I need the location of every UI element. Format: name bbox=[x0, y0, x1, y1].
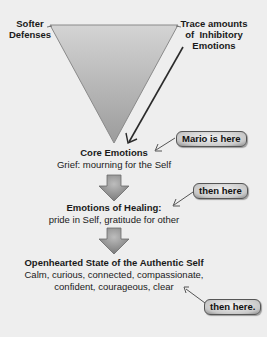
softer-defenses-label: Softer Defenses bbox=[8, 18, 52, 40]
emotions-of-healing-block: Emotions of Healing: pride in Self, grat… bbox=[24, 202, 204, 225]
label-line: Trace amounts bbox=[178, 18, 250, 29]
stage-description: pride in Self, gratitude for other bbox=[24, 214, 204, 225]
callout-badge-mario-is-here: Mario is here bbox=[176, 131, 247, 147]
openhearted-state-block: Openhearted State of the Authentic Self … bbox=[4, 257, 224, 292]
stage-title: Core Emotions bbox=[34, 147, 194, 158]
emotion-change-diagram: Softer Defenses Trace amounts of Inhibit… bbox=[0, 0, 267, 337]
callout-badge-then-here-final: then here. bbox=[204, 299, 261, 315]
label-line: Defenses bbox=[8, 29, 52, 40]
stage-description: confident, courageous, clear bbox=[4, 281, 224, 292]
inhibitory-emotions-label: Trace amounts of Inhibitory Emotions bbox=[178, 18, 250, 51]
stage-title: Openhearted State of the Authentic Self bbox=[4, 257, 224, 268]
label-line: Softer bbox=[8, 18, 52, 29]
label-line: Emotions bbox=[178, 40, 250, 51]
inverted-triangle-icon bbox=[50, 25, 178, 143]
callout-badge-then-here: then here bbox=[193, 183, 248, 199]
stage-title: Emotions of Healing: bbox=[24, 202, 204, 213]
stage-description: Grief: mourning for the Self bbox=[34, 159, 194, 170]
stage-description: Calm, curious, connected, compassionate, bbox=[4, 269, 224, 280]
core-emotions-block: Core Emotions Grief: mourning for the Se… bbox=[34, 147, 194, 170]
down-arrow-icon bbox=[99, 175, 129, 201]
down-arrow-icon bbox=[99, 228, 129, 254]
label-line: of Inhibitory bbox=[178, 29, 250, 40]
